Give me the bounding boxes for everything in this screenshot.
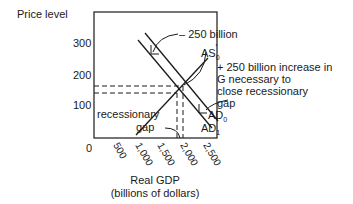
as-label: AS0' xyxy=(201,42,220,61)
y-tick-300: 300 xyxy=(73,37,91,49)
leader-top xyxy=(153,34,178,52)
x-axis-subtitle: (billions of dollars) xyxy=(111,187,200,199)
y-tick-200: 200 xyxy=(73,69,91,81)
annotation-right-2: G necessary to xyxy=(217,73,291,85)
gap-label-2: gap xyxy=(136,121,154,133)
annotation-right-3: close recessionary xyxy=(217,85,309,97)
origin-label: 0 xyxy=(86,142,92,154)
x-tick-1500: 1,500 xyxy=(155,141,177,169)
x-axis-title: Real GDP xyxy=(130,174,180,186)
annotation-right-4: gap xyxy=(217,97,235,109)
annotation-minus-250: – 250 billion xyxy=(179,28,238,40)
leader-gap xyxy=(165,128,180,138)
x-tick-1000: 1,000 xyxy=(133,141,155,169)
x-tick-2000: 2,000 xyxy=(178,141,200,169)
ad-as-chart: Price level 300 200 100 0 500 1,000 1,50… xyxy=(0,0,353,204)
annotation-right-1: + 250 billion increase in xyxy=(217,61,332,73)
y-axis-title: Price level xyxy=(17,8,68,20)
y-tick-100: 100 xyxy=(73,99,91,111)
x-tick-2500: 2,500 xyxy=(201,141,223,169)
gap-label-1: recessionary xyxy=(97,108,160,120)
ad0-label: AD0 xyxy=(208,109,227,123)
x-tick-500: 500 xyxy=(111,141,129,161)
